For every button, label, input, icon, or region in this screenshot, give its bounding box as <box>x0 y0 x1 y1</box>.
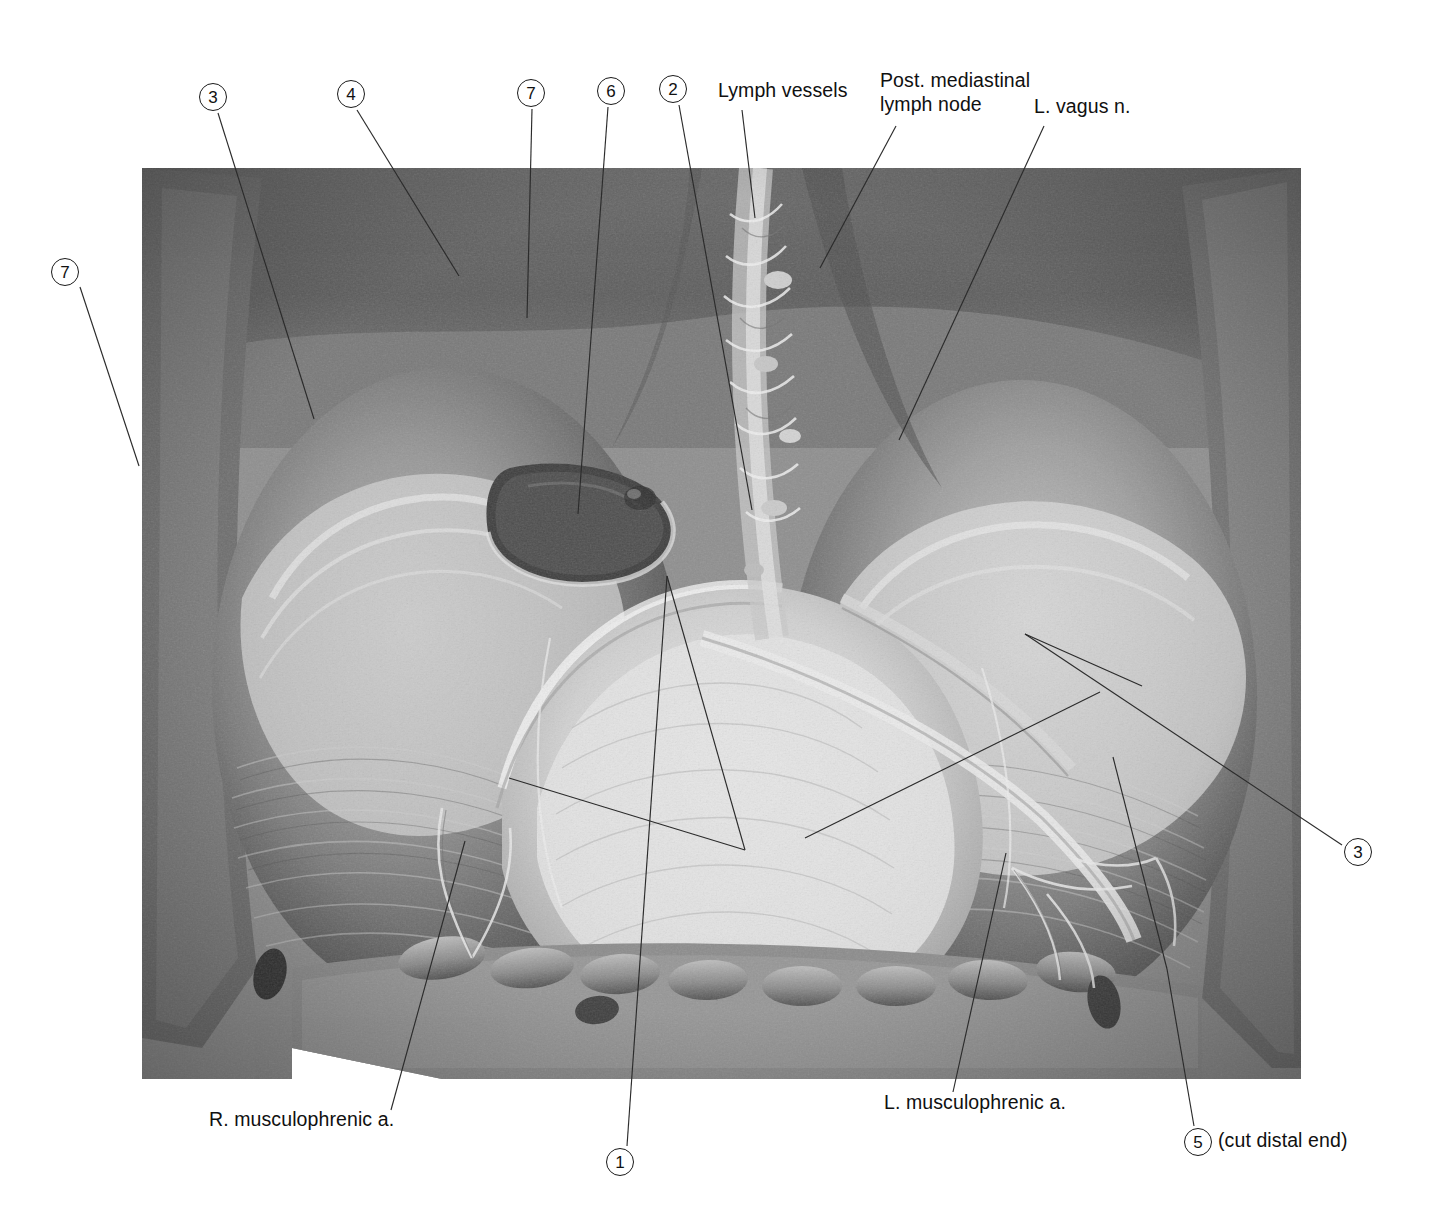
callout-3-right[interactable]: 3 <box>1344 838 1372 866</box>
label-lymph-vessels: Lymph vessels <box>718 78 848 102</box>
label-r-musculophrenic-a: R. musculophrenic a. <box>209 1107 394 1131</box>
dissection-photograph <box>142 168 1301 1079</box>
leader-c7-left <box>80 287 139 466</box>
callout-label: 7 <box>526 85 535 102</box>
callout-label: 1 <box>615 1154 624 1171</box>
callout-4-top[interactable]: 4 <box>337 80 365 108</box>
label-l-musculophrenic-a: L. musculophrenic a. <box>884 1090 1066 1114</box>
callout-2-top[interactable]: 2 <box>659 75 687 103</box>
callout-label: 5 <box>1193 1134 1202 1151</box>
callout-label: 2 <box>668 81 677 98</box>
callout-7-left[interactable]: 7 <box>51 258 79 286</box>
callout-6-top[interactable]: 6 <box>597 77 625 105</box>
callout-7-top[interactable]: 7 <box>517 79 545 107</box>
callout-label: 3 <box>208 89 217 106</box>
callout-label: 7 <box>60 264 69 281</box>
callout-label: 4 <box>346 86 355 103</box>
anatomical-plate: 3 4 7 6 2 7 3 1 5 Lymph vessels Post. me… <box>0 0 1439 1230</box>
callout-label: 6 <box>606 83 615 100</box>
label-l-vagus-n: L. vagus n. <box>1034 94 1131 118</box>
label-cut-distal-end: (cut distal end) <box>1218 1128 1348 1152</box>
callout-label: 3 <box>1353 844 1362 861</box>
callout-5-bottom[interactable]: 5 <box>1184 1128 1212 1156</box>
callout-1-bottom[interactable]: 1 <box>606 1148 634 1176</box>
photograph-canvas <box>142 168 1301 1079</box>
callout-3-top[interactable]: 3 <box>199 83 227 111</box>
label-line-1: Post. mediastinal <box>880 68 1090 92</box>
